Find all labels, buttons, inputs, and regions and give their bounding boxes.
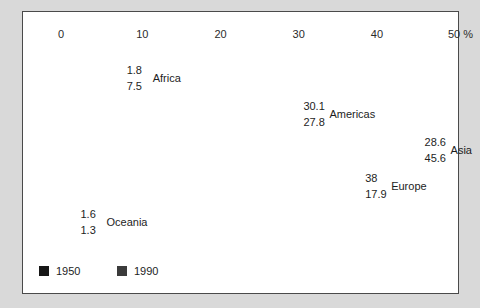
axis-tick-0: 0 [58, 28, 64, 41]
bar-row-asia-1990 [39, 150, 417, 168]
bar-row-europe-1950 [39, 168, 357, 186]
axis-tick-30: 30 [293, 28, 305, 41]
x-axis: 0 10 20 30 40 50 % [23, 28, 458, 44]
bar-row-americas-1950 [39, 96, 295, 114]
bar-row-africa-1950 [39, 60, 74, 78]
bar-row-europe-1990 [39, 186, 200, 204]
bar-row-oceania-1990 [39, 222, 70, 240]
value-label-oceania-1990: 1.3 [81, 224, 96, 237]
value-label-europe-1950: 38 [365, 172, 377, 185]
bar-row-americas-1990 [39, 114, 277, 132]
category-label-europe: Europe [391, 180, 426, 193]
value-label-africa-1990: 7.5 [127, 80, 142, 93]
legend-item-1950: 1950 [39, 261, 80, 275]
value-label-oceania-1950: 1.6 [81, 208, 96, 221]
plot-area: 1.8 7.5 Africa 30.1 27.8 Americas 28.6 4… [39, 49, 458, 245]
value-label-americas-1990: 27.8 [303, 116, 324, 129]
axis-tick-50: 50 % [448, 28, 473, 41]
page-background: 0 10 20 30 40 50 % 1.8 7.5 Africa [0, 0, 480, 308]
category-label-oceania: Oceania [107, 216, 148, 229]
value-label-europe-1990: 17.9 [365, 188, 386, 201]
axis-tick-20: 20 [214, 28, 226, 41]
legend-item-1990: 1990 [117, 261, 158, 275]
category-label-africa: Africa [153, 72, 181, 85]
axis-tick-10: 10 [136, 28, 148, 41]
bar-row-oceania-1950 [39, 204, 73, 222]
value-label-asia-1950: 28.6 [425, 136, 446, 149]
legend-swatch-icon-1990 [117, 266, 127, 276]
value-label-africa-1950: 1.8 [127, 64, 142, 77]
category-label-americas: Americas [329, 108, 375, 121]
legend-label-1990: 1990 [134, 265, 158, 278]
category-label-asia: Asia [451, 144, 472, 157]
value-label-asia-1990: 45.6 [425, 152, 446, 165]
value-label-americas-1950: 30.1 [303, 100, 324, 113]
axis-tick-40: 40 [371, 28, 383, 41]
bar-row-africa-1990 [39, 78, 119, 96]
legend-swatch-icon-1950 [39, 266, 49, 276]
bar-row-asia-1950 [39, 132, 284, 150]
chart-card: 0 10 20 30 40 50 % 1.8 7.5 Africa [22, 11, 459, 294]
legend-label-1950: 1950 [56, 265, 80, 278]
